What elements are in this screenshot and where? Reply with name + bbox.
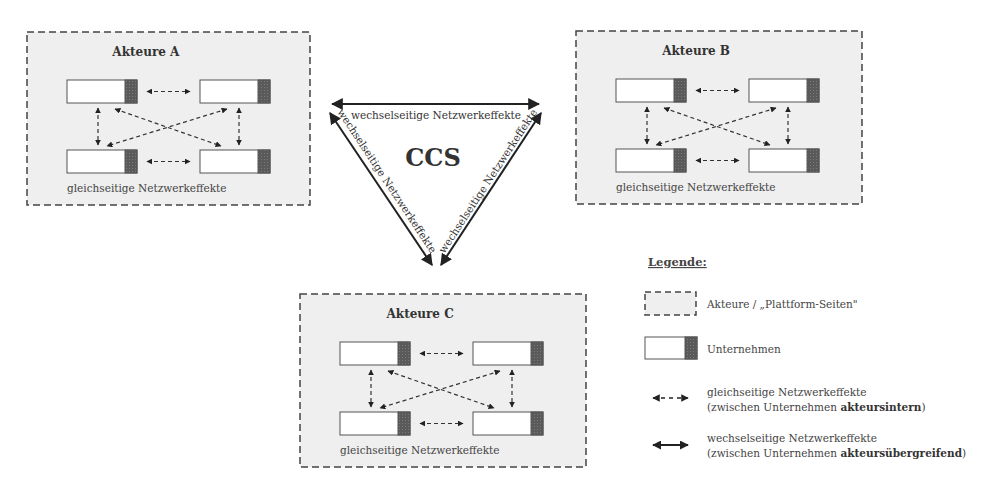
company-strip bbox=[125, 150, 137, 173]
company-strip bbox=[531, 412, 543, 435]
company-strip bbox=[674, 149, 686, 172]
legend-sublabel: (zwischen Unternehmen akteursintern) bbox=[707, 401, 926, 413]
ccs-label: CCS bbox=[405, 143, 461, 172]
actor-group-title: Akteure B bbox=[661, 44, 730, 58]
company-box bbox=[749, 149, 819, 172]
company-box bbox=[616, 79, 686, 102]
company-strip bbox=[398, 342, 410, 365]
right-edge-label: wechselseitige Netzwerkeffekte bbox=[436, 106, 539, 255]
actor-group-caption: gleichseitige Netzwerkeffekte bbox=[616, 181, 776, 193]
left-edge-label: wechselseitige Netzwerkeffekte bbox=[335, 107, 439, 255]
company-box bbox=[67, 80, 137, 103]
company-box bbox=[340, 412, 410, 435]
actor-group-caption: gleichseitige Netzwerkeffekte bbox=[340, 444, 500, 456]
company-box bbox=[67, 150, 137, 173]
left-edge-arrow bbox=[330, 113, 432, 265]
legend-item-cross-side: wechselseitige Netzwerkeffekte (zwischen… bbox=[653, 432, 966, 459]
legend-item-actors: Akteure / „Plattform-Seiten" bbox=[645, 292, 858, 315]
company-strip bbox=[258, 150, 270, 173]
legend-sublabel: (zwischen Unternehmen akteursübergreifen… bbox=[707, 447, 966, 459]
legend-label: gleichseitige Netzwerkeffekte bbox=[707, 386, 867, 398]
legend: Legende: Akteure / „Plattform-Seiten" Un… bbox=[645, 255, 966, 459]
actor-group-caption: gleichseitige Netzwerkeffekte bbox=[67, 182, 227, 194]
company-strip bbox=[807, 79, 819, 102]
company-strip bbox=[807, 149, 819, 172]
legend-label: wechselseitige Netzwerkeffekte bbox=[707, 432, 877, 444]
company-box bbox=[200, 80, 270, 103]
dashed-box-icon bbox=[645, 292, 696, 315]
top-edge-label: wechselseitige Netzwerkeffekte bbox=[351, 109, 521, 121]
legend-label: Unternehmen bbox=[707, 343, 781, 355]
actor-group-a: Akteure A gleichseitige Netzwerkeffekte bbox=[27, 32, 310, 205]
legend-item-company: Unternehmen bbox=[645, 337, 781, 359]
company-strip bbox=[125, 80, 137, 103]
legend-sublabel-text: (zwischen Unternehmen bbox=[707, 401, 840, 413]
company-box bbox=[473, 412, 543, 435]
actor-group-b: Akteure B gleichseitige Netzwerkeffekte bbox=[576, 31, 862, 204]
company-box bbox=[749, 79, 819, 102]
company-box bbox=[616, 149, 686, 172]
actor-group-title: Akteure C bbox=[386, 307, 454, 321]
legend-item-same-side: gleichseitige Netzwerkeffekte (zwischen … bbox=[653, 386, 926, 413]
actor-group-c: Akteure C gleichseitige Netzwerkeffekte bbox=[300, 294, 586, 467]
company-strip bbox=[674, 79, 686, 102]
ccs-triangle: wechselseitige Netzwerkeffekte wechselse… bbox=[330, 104, 541, 265]
legend-sublabel-bold: akteursintern bbox=[840, 401, 921, 413]
company-strip bbox=[258, 80, 270, 103]
company-box bbox=[473, 342, 543, 365]
legend-sublabel-text: (zwischen Unternehmen bbox=[707, 447, 840, 459]
actor-group-title: Akteure A bbox=[111, 45, 180, 59]
legend-label: Akteure / „Plattform-Seiten" bbox=[706, 298, 858, 310]
company-strip bbox=[531, 342, 543, 365]
right-edge-arrow bbox=[441, 113, 541, 265]
company-strip bbox=[398, 412, 410, 435]
legend-sublabel-close: ) bbox=[921, 401, 925, 413]
company-box bbox=[200, 150, 270, 173]
legend-title: Legende: bbox=[648, 255, 707, 269]
company-box bbox=[340, 342, 410, 365]
legend-sublabel-bold: akteursübergreifend bbox=[840, 447, 962, 459]
company-box-icon bbox=[645, 337, 697, 359]
legend-sublabel-close: ) bbox=[962, 447, 966, 459]
network-effects-diagram: Akteure A gleichseitige Netzwerkeffekte … bbox=[0, 0, 1000, 489]
